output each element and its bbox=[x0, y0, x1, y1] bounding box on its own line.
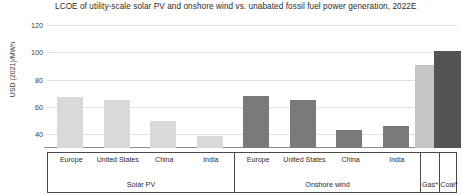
y-tick-label-40: 40 bbox=[35, 130, 43, 139]
gridline-100 bbox=[47, 52, 457, 53]
group-label-gas: Gas* bbox=[421, 180, 439, 189]
bar-onshore-wind-china bbox=[336, 130, 362, 148]
category-label-india: India bbox=[188, 155, 235, 177]
category-label-europe: Europe bbox=[48, 155, 95, 177]
group-label-solar-pv: Solar PV bbox=[48, 180, 234, 189]
group-label-onshore-wind: Onshore wind bbox=[235, 180, 420, 189]
y-axis-title: USD (2021)/MWh bbox=[9, 15, 16, 125]
category-label-china: China bbox=[328, 155, 374, 177]
category-label-india: India bbox=[374, 155, 420, 177]
bar-solar-pv-europe bbox=[57, 97, 83, 148]
category-label-europe: Europe bbox=[235, 155, 281, 177]
category-row: EuropeUnited StatesChinaIndia bbox=[235, 155, 420, 177]
bar-coal bbox=[434, 51, 461, 148]
category-label-united-states: United States bbox=[95, 155, 142, 177]
y-tick-label-120: 120 bbox=[31, 20, 43, 29]
category-row: EuropeUnited StatesChinaIndia bbox=[48, 155, 234, 177]
plot-area: 406080100120 bbox=[47, 18, 457, 148]
group-label-coal: Coal* bbox=[440, 180, 458, 189]
group-cell-coal: Coal* bbox=[439, 153, 458, 192]
y-tick-label-80: 80 bbox=[35, 75, 43, 84]
bar-onshore-wind-europe bbox=[243, 96, 269, 148]
category-label-united-states: United States bbox=[281, 155, 327, 177]
bar-solar-pv-china bbox=[150, 121, 176, 148]
bar-onshore-wind-india bbox=[383, 126, 409, 148]
group-cell-solar-pv: EuropeUnited StatesChinaIndiaSolar PV bbox=[48, 153, 234, 192]
gridline-120 bbox=[47, 25, 457, 26]
bar-solar-pv-india bbox=[197, 136, 223, 148]
gridline-80 bbox=[47, 80, 457, 81]
y-tick-label-100: 100 bbox=[31, 48, 43, 57]
group-cell-onshore-wind: EuropeUnited StatesChinaIndiaOnshore win… bbox=[234, 153, 420, 192]
chart-title: LCOE of utility-scale solar PV and onsho… bbox=[55, 2, 417, 12]
bar-onshore-wind-united-states bbox=[290, 100, 316, 148]
group-cell-gas: Gas* bbox=[420, 153, 439, 192]
lcoe-bar-chart: LCOE of utility-scale solar PV and onsho… bbox=[0, 0, 462, 195]
category-label-table: EuropeUnited StatesChinaIndiaSolar PVEur… bbox=[47, 152, 457, 193]
bar-solar-pv-united-states bbox=[104, 100, 130, 148]
y-tick-label-60: 60 bbox=[35, 102, 43, 111]
category-label-china: China bbox=[141, 155, 188, 177]
